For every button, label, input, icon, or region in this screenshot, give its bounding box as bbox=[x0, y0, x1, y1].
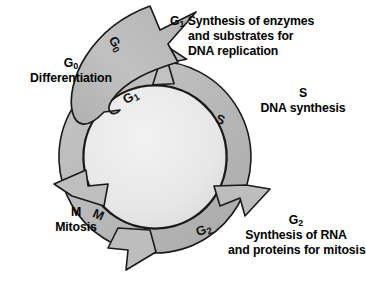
label-m-heading: M bbox=[30, 205, 122, 220]
label-g1-line2: and substrates for bbox=[170, 29, 314, 44]
g2-arrowhead bbox=[108, 228, 156, 270]
label-g2-line1: Synthesis of RNA bbox=[245, 228, 347, 242]
label-g0-line1: Differentiation bbox=[30, 71, 112, 85]
label-s-line1: DNA synthesis bbox=[260, 101, 345, 115]
label-g2-description: G2 Synthesis of RNA and proteins for mit… bbox=[228, 213, 364, 257]
label-m-line1: Mitosis bbox=[55, 220, 97, 234]
label-g2-heading: G2 bbox=[228, 213, 364, 228]
label-g0-heading: G0 bbox=[6, 56, 136, 71]
label-g1-line1: G1 Synthesis of enzymes bbox=[170, 14, 314, 28]
label-s-heading: S bbox=[248, 86, 358, 101]
label-m-mitosis: M Mitosis bbox=[30, 205, 122, 234]
label-g2-line2: and proteins for mitosis bbox=[228, 243, 366, 257]
label-g1-line3: DNA replication bbox=[170, 44, 314, 59]
label-g1-description: G1 Synthesis of enzymes and substrates f… bbox=[170, 14, 314, 58]
label-g0-differentiation: G0 Differentiation bbox=[6, 56, 136, 86]
label-s-dna-synthesis: S DNA synthesis bbox=[248, 86, 358, 115]
